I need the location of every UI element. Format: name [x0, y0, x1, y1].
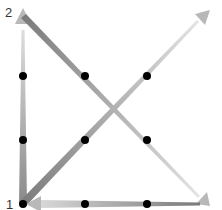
dot — [19, 72, 27, 80]
dot — [143, 136, 151, 144]
dot — [143, 200, 151, 208]
node-2-label: 2 — [5, 5, 12, 20]
edge-2-to-bottom-right — [21, 14, 200, 198]
edge-1-to-top-right — [20, 20, 199, 206]
node-1-label: 1 — [6, 197, 13, 210]
dot — [81, 72, 89, 80]
dot — [19, 136, 27, 144]
dot — [81, 136, 89, 144]
dot — [81, 200, 89, 208]
edge-bottom-right-to-1 — [40, 200, 200, 208]
node-1-dot — [19, 200, 27, 208]
graph-diagram: 2 1 — [0, 0, 222, 210]
edge-1-to-2 — [19, 30, 27, 204]
dot — [143, 72, 151, 80]
